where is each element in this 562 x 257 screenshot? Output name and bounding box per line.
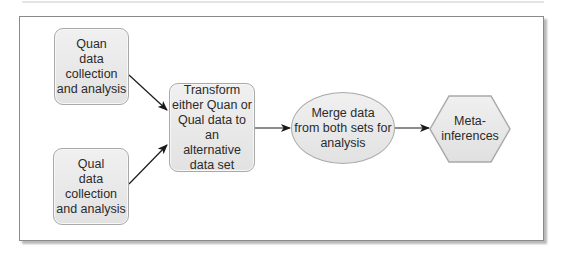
arrow-qual-to-transform: [129, 145, 167, 184]
node-meta-inferences: Meta- inferences: [429, 95, 511, 163]
node-merge-data: Merge data from both sets for analysis: [291, 92, 395, 164]
node-transform: Transform either Quan or Qual data to an…: [169, 83, 255, 172]
arrow-quan-to-transform: [129, 75, 167, 110]
node-qual-data-collection: Qual data collection and analysis: [53, 148, 129, 225]
node-quan-data-collection: Quan data collection and analysis: [54, 28, 129, 105]
